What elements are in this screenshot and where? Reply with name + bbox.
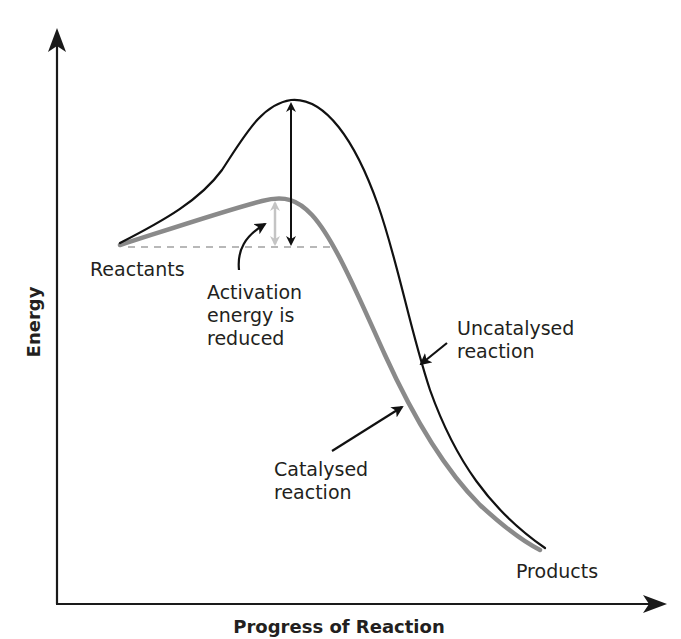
x-axis — [56, 595, 667, 613]
activation-label-line1: Activation — [207, 281, 302, 303]
reactants-label: Reactants — [90, 258, 185, 280]
activation-label-line3: reduced — [207, 327, 284, 349]
uncatalysed-label-line2: reaction — [457, 340, 535, 362]
x-axis-title: Progress of Reaction — [233, 616, 444, 637]
catalysed-pointer-arrow — [332, 407, 402, 451]
y-axis-title: Energy — [23, 286, 44, 357]
catalysed-label-line1: Catalysed — [274, 458, 368, 480]
catalysed-label-line2: reaction — [274, 481, 352, 503]
y-axis — [48, 28, 66, 604]
uncatalysed-label-line1: Uncatalysed — [457, 317, 574, 339]
activation-label-line2: energy is — [207, 304, 294, 326]
energy-profile-diagram: Reactants Activation energy is reduced U… — [0, 0, 681, 639]
products-label: Products — [516, 560, 598, 582]
uncatalysed-pointer-arrow — [421, 343, 447, 364]
